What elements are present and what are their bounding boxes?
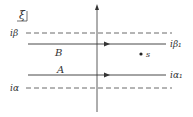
plane-label: ξ bbox=[17, 9, 27, 22]
label-s: s bbox=[146, 50, 150, 59]
label-ibeta1: iβ₁ bbox=[170, 39, 182, 49]
label-ialpha1: iα₁ bbox=[170, 70, 183, 80]
arrow-B-icon bbox=[104, 42, 110, 47]
label-A: A bbox=[56, 64, 64, 75]
svg-text:ξ: ξ bbox=[19, 9, 26, 22]
label-ialpha: iα bbox=[10, 83, 19, 93]
point-s bbox=[139, 52, 142, 55]
contour-diagram: ξ iβ B iβ₁ s A iα₁ iα bbox=[0, 0, 193, 117]
arrow-A-icon bbox=[104, 73, 110, 78]
axis-arrow-icon bbox=[95, 4, 99, 10]
label-ibeta: iβ bbox=[10, 28, 18, 38]
label-B: B bbox=[54, 47, 62, 58]
